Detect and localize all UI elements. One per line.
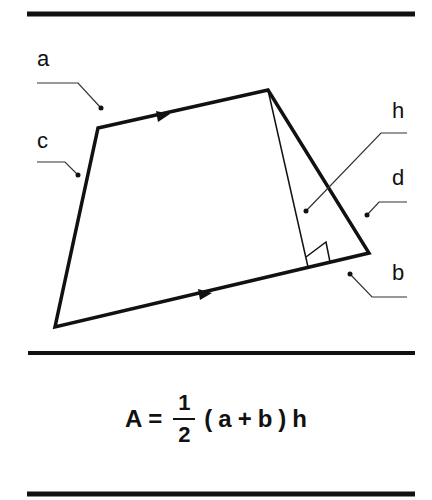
formula-denominator: 2 <box>178 424 190 446</box>
leader-d <box>367 202 407 215</box>
height-line <box>268 90 308 267</box>
formula-close-paren: ) <box>278 405 286 433</box>
area-formula: A = 1 2 ( a + b ) h <box>0 392 432 446</box>
label-h: h <box>392 100 404 122</box>
formula-numerator: 1 <box>178 392 190 414</box>
formula-plus: + <box>238 405 252 433</box>
formula-h: h <box>292 405 307 433</box>
trapezoid-shape <box>55 90 369 327</box>
formula-equals: = <box>148 405 162 433</box>
leader-a <box>37 83 101 108</box>
label-b: b <box>392 262 404 284</box>
label-c: c <box>37 130 48 152</box>
formula-b: b <box>258 405 273 433</box>
label-a: a <box>37 48 49 70</box>
formula-a: a <box>218 405 231 433</box>
formula-open-paren: ( <box>204 405 212 433</box>
formula-lhs: A <box>125 405 142 433</box>
fraction-bar <box>173 418 195 420</box>
leader-c <box>37 162 78 175</box>
right-angle-marker <box>306 242 330 262</box>
label-d: d <box>392 167 404 189</box>
formula-fraction: 1 2 <box>173 392 195 446</box>
